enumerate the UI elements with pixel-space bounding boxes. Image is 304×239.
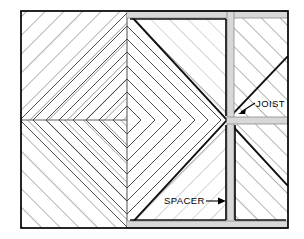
bottom-spacer-band [127, 221, 288, 228]
joist-label: JOIST [256, 98, 285, 109]
diagram-canvas: JOIST SPACER [0, 0, 304, 239]
spacer-label: SPACER [164, 195, 205, 206]
top-spacer-band [127, 11, 288, 18]
deck-layout-diagram: JOIST SPACER [0, 0, 304, 239]
joist-band [227, 117, 288, 124]
bottom-right-hatch-field [227, 120, 288, 228]
